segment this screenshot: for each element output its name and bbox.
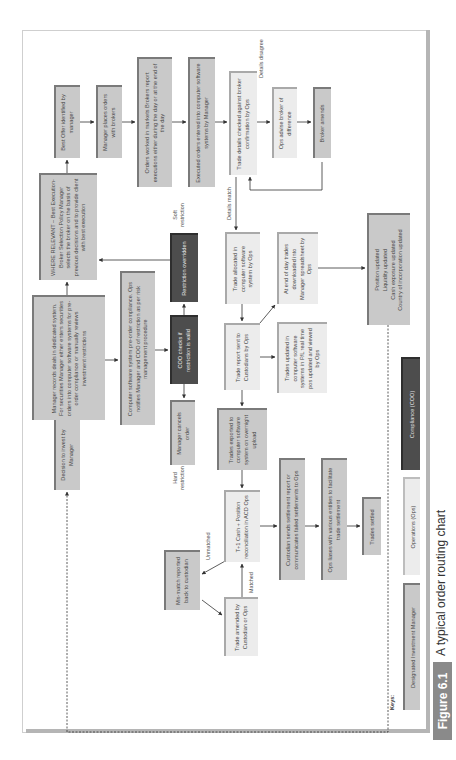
figure-number: Figure 6.1 — [433, 662, 452, 740]
box-decision-to-invest: Decision to invest by Manager — [54, 418, 80, 490]
box-best-offer: Best Offer identified by manager — [54, 85, 80, 158]
box-trades-updated: Trades updated in computer software syst… — [277, 322, 327, 393]
box-ops-advise: Ops advise broker of difference — [272, 87, 297, 158]
label-matched: Matched — [248, 572, 255, 593]
box-trade-details-checked: Trade details checked against broker con… — [229, 71, 257, 175]
box-trade-allocated: Trade allocated in computer software sys… — [225, 232, 260, 304]
key-operations: Operations (Ops) — [403, 477, 420, 575]
box-computer-software-preorder: Computer software system pre-order compl… — [120, 271, 155, 425]
box-trades-settled: Trades settled — [362, 497, 381, 555]
label-unmatched: Unmatched — [205, 532, 212, 560]
box-manager-places-orders: Manager places orders with brokers — [96, 85, 122, 158]
key-designated-investment-manager: Designated Investment Manager — [403, 583, 420, 710]
box-orders-worked: Orders worked in markets Brokers report … — [137, 57, 172, 187]
keys-title: Keys: — [389, 695, 395, 710]
box-coo-checks: COO checks if restriction is valid — [170, 315, 198, 384]
label-soft-restriction: Soft restriction — [172, 200, 186, 230]
label-details-match: Details match — [226, 187, 233, 220]
box-t1-reconciliation: T+1 Cash + Position reconciliation in AC… — [224, 490, 260, 562]
box-trade-amended: Trade amended by Custodian or Ops — [224, 597, 258, 656]
box-trades-exported: Trades exported to computer software sys… — [217, 408, 267, 470]
flowchart-canvas: Decision to invest by Manager Manager re… — [0, 0, 456, 760]
key-compliance: Compliance (COO) — [401, 357, 420, 470]
box-mismatch: Mis-match reported back to custodian — [164, 550, 200, 610]
box-trade-report-sent: Trade report sent to Custodians by Ops — [224, 323, 260, 390]
figure-caption: A typical order routing chart — [434, 510, 448, 656]
box-end-of-day-download: At end of day trades downloaded into Man… — [277, 232, 318, 304]
label-details-disagree-top: Details disagree — [258, 39, 265, 78]
box-position-updated: Position updated Liquidity updated Cash … — [367, 213, 410, 325]
label-hard-restriction: Hard restriction — [172, 466, 186, 490]
box-ops-liases: Ops liases with various entities to faci… — [321, 458, 347, 580]
box-executed-orders: Executed orders entered into computer so… — [188, 57, 215, 187]
box-restriction-overridden: Restriction overridden — [170, 233, 198, 302]
box-manager-cancels: Manager cancels order — [170, 400, 195, 465]
box-best-execution-policy: WHERE RELEVANT – Best Execution-Broker S… — [39, 173, 97, 280]
box-broker-amends: Broker amends — [313, 87, 331, 158]
box-manager-records-deals: Manager records deals in dedicated syste… — [32, 295, 105, 420]
box-custodian-sends: Custodian sends settlement report or com… — [279, 458, 305, 580]
